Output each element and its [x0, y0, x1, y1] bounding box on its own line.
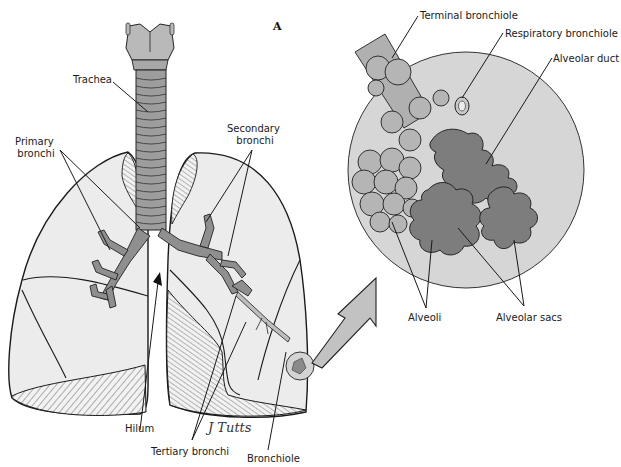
label-trachea: Trachea [72, 74, 112, 85]
alveolus-magnified-origin [286, 352, 314, 380]
right-lung [9, 152, 148, 415]
alveoli-inset [348, 34, 584, 288]
trachea [136, 70, 166, 230]
label-bronchiole: Bronchiole [247, 453, 300, 464]
label-respiratory-bronchiole: Respiratory bronchiole [505, 28, 618, 39]
label-alveolar-duct: Alveolar duct [553, 53, 619, 64]
label-primary-bronchi: Primary bronchi [15, 136, 57, 159]
label-tertiary-bronchi: Tertiary bronchi [150, 446, 229, 457]
label-hilum: Hilum [125, 423, 154, 434]
larynx [126, 23, 174, 70]
label-terminal-bronchiole: Terminal bronchiole [419, 10, 518, 21]
magnification-arrow-icon [312, 278, 376, 368]
label-secondary-bronchi: Secondary bronchi [227, 123, 283, 146]
panel-label: A [272, 20, 282, 33]
respiratory-tract-diagram: J Tutts [0, 0, 621, 467]
artist-signature: J Tutts [205, 420, 252, 435]
label-alveoli: Alveoli [408, 312, 441, 323]
label-alveolar-sacs: Alveolar sacs [496, 312, 562, 323]
